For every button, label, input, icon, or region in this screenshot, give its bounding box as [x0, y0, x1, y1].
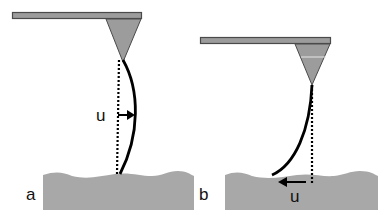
fiber-b	[272, 85, 312, 175]
panel-label-a: a	[26, 185, 36, 204]
surface-a	[43, 171, 194, 210]
cantilever-a	[13, 13, 142, 19]
displacement-label-a: u	[96, 106, 105, 125]
reference-line-a	[117, 60, 119, 174]
tip-a	[106, 19, 141, 62]
cantilever-b	[201, 38, 331, 44]
tip-b	[295, 44, 330, 85]
panel-label-b: b	[199, 185, 208, 204]
panel-a: u a	[13, 13, 195, 211]
surface-b	[225, 171, 378, 210]
displacement-label-b: u	[290, 187, 299, 206]
panel-b: u b	[199, 38, 378, 211]
afm-diagram: u a u b	[0, 0, 388, 220]
